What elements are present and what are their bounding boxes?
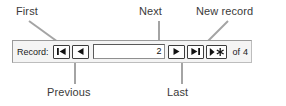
last-record-button[interactable] [187,45,204,59]
first-record-button[interactable] [53,45,70,59]
callout-label-new-record: New record [196,5,253,18]
leader-line-first [29,21,58,42]
callout-label-first: First [16,5,38,18]
callout-label-previous: Previous [47,86,91,99]
record-total-count: 4 [243,47,248,57]
first-record-icon [56,47,67,56]
last-record-icon [190,47,201,56]
next-record-button[interactable] [168,45,185,59]
next-record-icon [172,47,181,56]
record-total-of-word: of [232,47,240,57]
record-total: of4 [232,47,248,57]
record-label: Record: [17,47,49,57]
callout-label-next: Next [139,5,162,18]
new-record-icon [209,47,225,57]
current-record-input[interactable]: 2 [93,44,166,59]
new-record-button[interactable] [206,45,227,59]
callout-label-last: Last [167,86,188,99]
previous-record-icon [76,47,85,56]
previous-record-button[interactable] [72,45,89,59]
record-navigation-bar: Record: 2 [12,40,252,63]
